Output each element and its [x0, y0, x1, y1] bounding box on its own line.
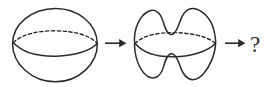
- arrow-2: [225, 39, 245, 47]
- arrow-2-head: [238, 39, 245, 47]
- topology-deformation-figure: ?: [0, 0, 270, 87]
- question-mark-label: ?: [250, 32, 260, 57]
- sphere-figure: [13, 8, 98, 81]
- sphere-equator-back-dashed: [13, 31, 97, 43]
- sphere-outline: [13, 8, 98, 81]
- deformed-sphere-outline: [134, 8, 215, 79]
- arrow-1-head: [119, 39, 126, 47]
- sphere-equator-front-solid: [13, 43, 97, 56]
- arrow-1: [105, 39, 126, 47]
- deformed-sphere-figure: [134, 8, 215, 79]
- figure-canvas: ?: [0, 0, 270, 87]
- deformed-sphere-equator-back-dashed: [135, 33, 215, 44]
